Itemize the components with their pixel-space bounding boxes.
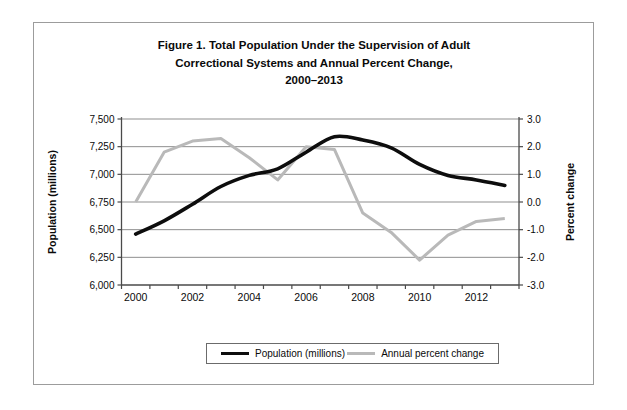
left-axis-tick-label: 7,000 bbox=[89, 169, 114, 180]
chart-title-line-1: Figure 1. Total Population Under the Sup… bbox=[34, 37, 594, 55]
chart-title: Figure 1. Total Population Under the Sup… bbox=[34, 37, 594, 90]
population-line bbox=[136, 136, 505, 234]
left-axis-tick-label: 6,250 bbox=[89, 252, 114, 263]
right-axis-title: Percent change bbox=[564, 102, 580, 302]
chart-title-line-2: Correctional Systems and Annual Percent … bbox=[34, 55, 594, 73]
x-axis-tick-label: 2006 bbox=[294, 291, 318, 303]
legend-item-population: Population (millions) bbox=[221, 348, 345, 359]
right-axis-tick-label: 0.0 bbox=[527, 197, 541, 208]
right-axis-tick-label: -2.0 bbox=[527, 252, 545, 263]
left-axis-tick-label: 6,750 bbox=[89, 197, 114, 208]
legend-label-population: Population (millions) bbox=[255, 348, 345, 359]
x-axis-tick-label: 2012 bbox=[465, 291, 489, 303]
figure-container: 6,0006,2506,5006,7507,0007,2507,500-3.0-… bbox=[0, 0, 627, 410]
x-axis-tick-label: 2000 bbox=[124, 291, 148, 303]
right-axis-tick-label: -1.0 bbox=[527, 224, 545, 235]
x-axis-tick-label: 2004 bbox=[238, 291, 262, 303]
population-line-swatch bbox=[221, 352, 249, 355]
left-axis-tick-label: 7,250 bbox=[89, 141, 114, 152]
right-axis-tick-label: 3.0 bbox=[527, 114, 541, 125]
percent-change-line-swatch bbox=[347, 352, 375, 355]
right-axis-tick-label: 1.0 bbox=[527, 169, 541, 180]
left-axis-tick-label: 7,500 bbox=[89, 114, 114, 125]
x-axis-tick-label: 2002 bbox=[181, 291, 205, 303]
left-axis-tick-label: 6,000 bbox=[89, 280, 114, 291]
right-axis-tick-label: 2.0 bbox=[527, 141, 541, 152]
chart-title-line-3: 2000–2013 bbox=[34, 72, 594, 90]
legend: Population (millions) Annual percent cha… bbox=[206, 343, 499, 364]
percent-change-line bbox=[136, 138, 505, 260]
legend-item-percent-change: Annual percent change bbox=[347, 348, 484, 359]
x-axis-tick-label: 2010 bbox=[408, 291, 432, 303]
right-axis-tick-label: -3.0 bbox=[527, 280, 545, 291]
x-axis-tick-label: 2008 bbox=[351, 291, 375, 303]
left-axis-tick-label: 6,500 bbox=[89, 224, 114, 235]
left-axis-title: Population (millions) bbox=[46, 102, 62, 302]
legend-label-percent-change: Annual percent change bbox=[381, 348, 484, 359]
